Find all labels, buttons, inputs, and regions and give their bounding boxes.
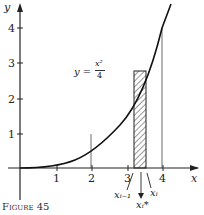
- curve-label: y =: [74, 67, 91, 77]
- tick-label-y1: 1: [8, 129, 15, 140]
- tick-label-y4: 4: [8, 23, 15, 34]
- x-axis-label: x: [191, 173, 197, 184]
- curve: [20, 4, 171, 168]
- y-axis-arrow-icon: [17, 3, 23, 12]
- x-axis-arrow-icon: [190, 165, 199, 171]
- plot-canvas: [0, 0, 204, 215]
- label-xi-star: xᵢ*: [136, 200, 149, 210]
- y-axis-label: y: [4, 2, 10, 13]
- tick-label-x1: 1: [53, 173, 60, 184]
- curve-label-numerator: x²: [95, 60, 103, 68]
- label-xi: xᵢ: [150, 188, 158, 198]
- tick-label-y3: 3: [8, 58, 15, 69]
- tick-label-x4: 4: [159, 173, 166, 184]
- tick-label-x2: 2: [88, 173, 95, 184]
- curve-label-denominator: 4: [97, 72, 102, 80]
- figure-caption: Figure 45: [2, 201, 49, 212]
- label-xi-minus-1: xᵢ₋₁: [114, 190, 131, 200]
- tick-label-y2: 2: [8, 94, 15, 105]
- figure: y x 1 2 3 4 1 2 3 4 y = x² 4 xᵢ₋₁ xᵢ xᵢ*…: [0, 0, 204, 215]
- tick-label-x3: 3: [124, 173, 131, 184]
